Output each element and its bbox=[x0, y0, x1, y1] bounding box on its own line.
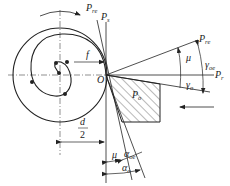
mu-arc-top bbox=[178, 48, 181, 88]
gamma-oe-arc bbox=[198, 45, 203, 93]
label-2: 2 bbox=[80, 129, 85, 140]
label-o: O bbox=[97, 74, 104, 85]
label-gamma-o: γo bbox=[186, 79, 194, 91]
label-pre-right: Pre bbox=[198, 33, 210, 45]
label-mu-bottom: μ bbox=[111, 149, 117, 160]
label-d: d bbox=[80, 116, 86, 127]
label-alpha-oe: αoe bbox=[124, 148, 136, 160]
center-lines bbox=[8, 10, 110, 155]
label-ps: Ps bbox=[100, 11, 110, 23]
cutting-tool-diagram: Pre Ps f O Po Pre μ γoe Pr γo d 2 μ αoe … bbox=[0, 0, 230, 186]
pre-line bbox=[106, 40, 198, 75]
label-f: f bbox=[86, 49, 90, 60]
label-pre-top: Pre bbox=[85, 2, 97, 14]
label-alpha-o: αo bbox=[122, 162, 131, 174]
spiral-points bbox=[30, 60, 69, 96]
label-pr: Pr bbox=[214, 69, 224, 81]
label-gamma-oe: γoe bbox=[205, 59, 215, 71]
label-mu-top: μ bbox=[185, 52, 191, 63]
mu-arc-bottom bbox=[107, 160, 120, 162]
